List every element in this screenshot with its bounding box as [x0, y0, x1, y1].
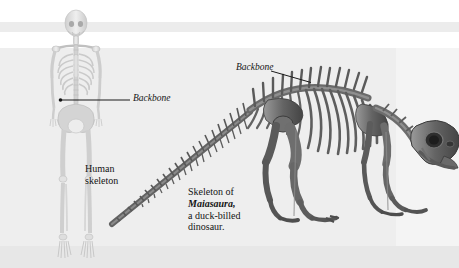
caption-line-3: a duck-billed	[188, 210, 240, 222]
caption-line-2-genus: Maiasaura,	[188, 198, 240, 210]
label-human-line-2: skeleton	[85, 175, 118, 187]
caption-maiasaura: Skeleton of Maiasaura, a duck-billed din…	[188, 186, 240, 233]
caption-line-1: Skeleton of	[188, 186, 240, 198]
caption-line-4: dinosaur.	[188, 221, 240, 233]
label-human-skeleton: Human skeleton	[85, 163, 118, 187]
label-backbone-dino: Backbone	[236, 62, 273, 73]
label-backbone-human: Backbone	[133, 93, 170, 104]
figure-page: Backbone Backbone Human skeleton Skeleto…	[0, 0, 459, 268]
dinosaur-skeleton-image	[100, 52, 459, 262]
label-human-line-1: Human	[85, 163, 118, 175]
